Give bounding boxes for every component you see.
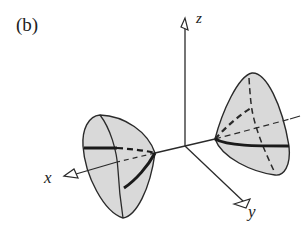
y-axis-label: y bbox=[248, 202, 256, 222]
hyperboloid-figure: (b) bbox=[0, 0, 308, 226]
x-arrow-icon bbox=[64, 169, 78, 178]
z-arrow-icon bbox=[181, 18, 188, 30]
x-axis-positive-segment bbox=[185, 139, 215, 146]
x-axis-label: x bbox=[44, 168, 52, 188]
left-sheet bbox=[83, 115, 155, 218]
x-axis-segment bbox=[155, 146, 185, 153]
z-axis bbox=[181, 18, 188, 146]
right-sheet bbox=[215, 73, 300, 175]
z-axis-label: z bbox=[196, 10, 202, 27]
diagram-canvas bbox=[0, 0, 308, 226]
